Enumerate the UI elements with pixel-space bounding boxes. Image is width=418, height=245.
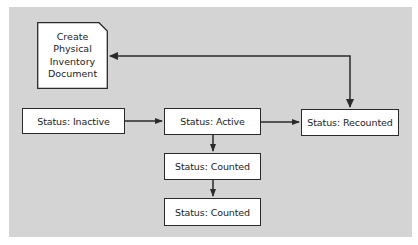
arrowhead-down-icon (346, 99, 354, 108)
arrowhead-left-icon (109, 52, 118, 60)
connector-arrows (0, 0, 418, 245)
arrow-recounted-to-document (110, 56, 350, 107)
